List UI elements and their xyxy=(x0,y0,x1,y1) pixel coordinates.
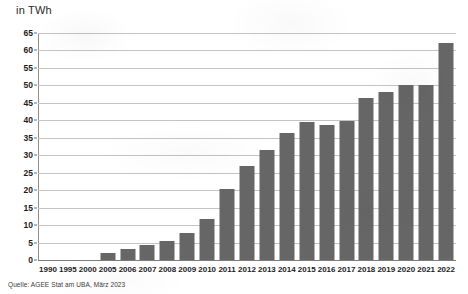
bar[interactable] xyxy=(279,133,294,260)
y-axis-tick-mark xyxy=(34,33,37,34)
y-axis-tick-label: 40 xyxy=(24,115,33,125)
x-axis-tick-label: 2022 xyxy=(437,265,455,274)
bar[interactable] xyxy=(100,253,115,260)
bar-slot: 2010 xyxy=(197,33,217,260)
y-axis-tick-mark xyxy=(34,172,37,173)
y-axis-tick-label: 15 xyxy=(24,203,33,213)
y-axis-tick-label: 20 xyxy=(24,185,33,195)
bar-slot: 1995 xyxy=(58,33,78,260)
y-axis-tick-label: 60 xyxy=(24,45,33,55)
y-axis-tick-label: 55 xyxy=(24,63,33,73)
y-axis-tick-mark xyxy=(34,50,37,51)
bar[interactable] xyxy=(399,85,414,260)
x-axis-tick-label: 2008 xyxy=(158,265,176,274)
x-axis-tick-label: 2011 xyxy=(218,265,235,274)
y-axis-tick-mark xyxy=(34,190,37,191)
bar[interactable] xyxy=(140,245,155,260)
bar-slot: 2008 xyxy=(157,33,177,260)
bar-slot: 2007 xyxy=(138,33,158,260)
bar-slot: 2015 xyxy=(297,33,317,260)
y-axis-tick-mark xyxy=(34,67,37,68)
bar-slot: 2011 xyxy=(217,33,237,260)
x-axis-tick-label: 2018 xyxy=(358,265,376,274)
bar-slot: 2021 xyxy=(416,33,436,260)
y-axis-tick-mark xyxy=(34,120,37,121)
bar-slot: 2018 xyxy=(356,33,376,260)
y-axis-tick-mark xyxy=(34,260,37,261)
y-axis-tick-mark xyxy=(34,137,37,138)
y-axis-tick-mark xyxy=(34,207,37,208)
bar[interactable] xyxy=(359,98,374,260)
x-axis-tick-label: 2013 xyxy=(258,265,276,274)
x-axis-tick-label: 2017 xyxy=(338,265,356,274)
bar-slot: 2020 xyxy=(396,33,416,260)
bar[interactable] xyxy=(379,92,394,260)
x-axis-tick-label: 2000 xyxy=(79,265,97,274)
bar[interactable] xyxy=(439,43,454,260)
bar-slot: 2022 xyxy=(436,33,456,260)
bar-slot: 2009 xyxy=(177,33,197,260)
x-axis-tick-label: 2021 xyxy=(417,265,435,274)
y-axis-tick-mark xyxy=(34,85,37,86)
x-axis-tick-label: 2007 xyxy=(139,265,157,274)
y-axis-tick-label: 10 xyxy=(24,220,33,230)
x-axis-tick-label: 2010 xyxy=(198,265,216,274)
y-axis-tick-label: 5 xyxy=(28,238,33,248)
x-axis-tick-label: 2009 xyxy=(178,265,196,274)
bar[interactable] xyxy=(160,241,175,260)
x-axis-tick-label: 2016 xyxy=(318,265,336,274)
y-axis-unit-label: in TWh xyxy=(16,4,52,16)
bar-slot: 2000 xyxy=(78,33,98,260)
source-note: Quelle: AGEE Stat am UBA, März 2023 xyxy=(8,281,125,288)
bar-slot: 2006 xyxy=(118,33,138,260)
bars-group: 1990199520002005200620072008200920102011… xyxy=(38,33,456,260)
y-axis-tick-mark xyxy=(34,155,37,156)
x-axis-tick-label: 1995 xyxy=(59,265,77,274)
x-axis-tick-label: 2015 xyxy=(298,265,316,274)
bar[interactable] xyxy=(259,150,274,260)
y-axis-tick-mark xyxy=(34,102,37,103)
x-axis-tick-label: 2020 xyxy=(397,265,415,274)
bar-slot: 2017 xyxy=(337,33,357,260)
bar[interactable] xyxy=(120,249,135,260)
x-axis-tick-label: 2019 xyxy=(377,265,395,274)
bar-slot: 1990 xyxy=(38,33,58,260)
x-axis-tick-label: 1990 xyxy=(39,265,57,274)
bar[interactable] xyxy=(339,121,354,260)
y-axis-tick-label: 65 xyxy=(24,28,33,38)
bar-slot: 2016 xyxy=(317,33,337,260)
bar-slot: 2019 xyxy=(376,33,396,260)
x-axis-tick-label: 2006 xyxy=(119,265,137,274)
chart-plot-area: 65605550454035302520151050 1990199520002… xyxy=(38,33,456,260)
y-axis-tick-mark xyxy=(34,225,37,226)
bar-slot: 2005 xyxy=(98,33,118,260)
bar-slot: 2014 xyxy=(277,33,297,260)
x-axis-tick-label: 2014 xyxy=(278,265,296,274)
bar[interactable] xyxy=(220,189,235,260)
x-axis-tick-label: 2012 xyxy=(238,265,256,274)
y-axis-tick-label: 45 xyxy=(24,98,33,108)
gridline xyxy=(38,260,456,261)
x-axis-tick-label: 2005 xyxy=(99,265,117,274)
y-axis-tick-label: 30 xyxy=(24,150,33,160)
bar[interactable] xyxy=(180,233,195,260)
y-axis-tick-label: 35 xyxy=(24,133,33,143)
bar[interactable] xyxy=(239,166,254,260)
bar[interactable] xyxy=(419,85,434,260)
bar[interactable] xyxy=(200,219,215,260)
bar[interactable] xyxy=(299,122,314,260)
bar[interactable] xyxy=(319,125,334,260)
y-axis-tick-mark xyxy=(34,242,37,243)
y-axis-tick-label: 0 xyxy=(28,255,33,265)
y-axis-tick-label: 50 xyxy=(24,80,33,90)
bar-slot: 2012 xyxy=(237,33,257,260)
bar-slot: 2013 xyxy=(257,33,277,260)
y-axis-tick-label: 25 xyxy=(24,168,33,178)
